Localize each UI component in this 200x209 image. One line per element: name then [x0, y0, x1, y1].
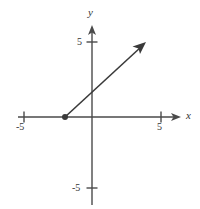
x-tick-label-neg5: -5 [16, 122, 24, 132]
x-tick-label-pos5: 5 [157, 122, 162, 132]
coordinate-plane-figure: x y -5 5 5 -5 [0, 0, 200, 209]
graph-canvas [0, 0, 200, 209]
x-axis-label: x [186, 110, 191, 121]
ray-endpoint-dot [62, 114, 68, 120]
y-tick-label-neg5: -5 [72, 183, 80, 193]
y-axis-label: y [88, 7, 93, 18]
y-tick-label-pos5: 5 [77, 37, 82, 47]
ray-line [65, 47, 141, 117]
